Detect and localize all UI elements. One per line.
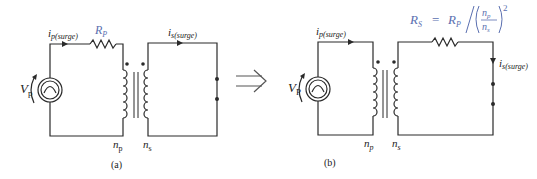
- terminal-dot-bottom: [215, 97, 219, 101]
- panel-a: ip(surge) RP is(surge) Vp np ns (a): [20, 23, 219, 171]
- panel-b: ip(surge) is(surge) VP np ns (b) RS = RP…: [288, 3, 528, 169]
- secondary-polarity-dot: [141, 62, 145, 66]
- terminal-dot-top: [215, 77, 219, 81]
- ac-source-inner: [41, 81, 59, 99]
- secondary-current-arrow: [177, 40, 183, 46]
- secondary-loop-wire: [398, 42, 493, 135]
- secondary-coil: [144, 70, 148, 118]
- secondary-current-arrow: [490, 58, 496, 64]
- secondary-turns-label: ns: [392, 137, 401, 152]
- resistor-rp: [90, 40, 116, 48]
- formula-paren-left: [476, 6, 479, 33]
- formula-numerator: np: [482, 7, 491, 20]
- primary-turns-label: np: [364, 137, 374, 152]
- formula-exponent: 2: [503, 3, 508, 13]
- primary-bottom-wire: [50, 102, 123, 136]
- source-voltage-label: VP: [288, 80, 301, 97]
- primary-current-label: ip(surge): [316, 25, 346, 39]
- secondary-coil: [394, 68, 398, 116]
- transform-arrow-icon: [236, 70, 266, 92]
- primary-bottom-wire: [318, 101, 373, 135]
- terminal-dot-bottom: [491, 102, 495, 106]
- resistor-rs: [432, 38, 458, 46]
- secondary-top-wire-left: [398, 42, 432, 68]
- secondary-current-label: is(surge): [168, 26, 197, 40]
- secondary-loop-wire: [148, 43, 217, 136]
- ac-source-inner: [309, 80, 327, 98]
- resistor-label: RP: [94, 23, 107, 39]
- terminal-dot-top: [491, 82, 495, 86]
- secondary-turns-label: ns: [143, 138, 152, 153]
- formula-rhs: RP: [447, 12, 461, 29]
- voltage-arrow-icon: [300, 73, 305, 79]
- formula-denominator: ns: [482, 21, 490, 34]
- primary-top-wire-left: [50, 44, 90, 78]
- circuit-diagram: ip(surge) RP is(surge) Vp np ns (a): [0, 0, 537, 179]
- formula-equals: =: [432, 12, 439, 27]
- voltage-arrow-icon: [32, 74, 37, 80]
- primary-current-arrow: [62, 41, 68, 47]
- primary-current-arrow: [348, 39, 354, 45]
- primary-turns-label: np: [113, 138, 123, 153]
- primary-polarity-dot: [376, 60, 380, 64]
- formula-divide-slash: [466, 6, 474, 33]
- sine-glyph-icon: [312, 86, 324, 93]
- resistor-formula: RS = RP np ns 2: [409, 3, 508, 34]
- source-voltage-label: Vp: [20, 81, 33, 98]
- sine-glyph-icon: [44, 87, 56, 94]
- caption-a: (a): [111, 159, 122, 171]
- secondary-polarity-dot: [392, 60, 396, 64]
- primary-polarity-dot: [125, 62, 129, 66]
- caption-b: (b): [324, 157, 336, 169]
- primary-coil: [373, 68, 377, 116]
- formula-paren-right: [499, 6, 502, 33]
- primary-coil: [123, 70, 127, 118]
- secondary-current-label: is(surge): [499, 57, 528, 71]
- primary-top-wire: [318, 42, 373, 77]
- primary-current-label: ip(surge): [48, 27, 78, 41]
- primary-top-wire-right: [116, 44, 123, 70]
- formula-lhs: RS: [409, 12, 422, 29]
